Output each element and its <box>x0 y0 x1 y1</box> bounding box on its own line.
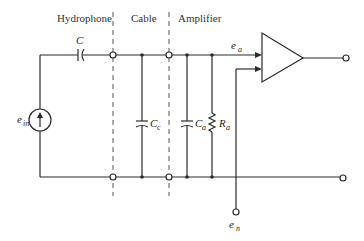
junction-dot <box>140 53 144 57</box>
input-arrow-ea <box>255 52 262 58</box>
terminal-noise <box>233 209 239 215</box>
section-label-cable: Cable <box>131 12 157 24</box>
terminal-output <box>343 55 349 61</box>
voltage-source-ein <box>29 109 51 177</box>
label-c: C <box>76 34 84 46</box>
amp-resistor-ra <box>209 55 215 177</box>
cable-capacitor-cc <box>136 55 148 177</box>
terminal-cable-bottom <box>166 174 172 180</box>
label-en-sub: n <box>236 224 240 233</box>
label-ea-sub: a <box>238 45 242 54</box>
section-label-hydrophone: Hydrophone <box>57 12 112 24</box>
amp-capacitor-ca <box>181 55 193 177</box>
junction-dot <box>185 53 189 57</box>
noise-input-wire <box>236 66 262 209</box>
junction-dot <box>210 175 214 179</box>
hydrophone-circuit-diagram: Hydrophone Cable Amplifier C e in C c <box>0 0 364 241</box>
label-ra: R <box>218 117 226 129</box>
label-ea: e <box>231 39 236 51</box>
label-en: e <box>229 218 234 230</box>
amplifier-triangle <box>262 33 303 82</box>
junction-dot <box>185 175 189 179</box>
terminal-hydrophone-bottom <box>110 174 116 180</box>
terminal-ground-output <box>340 175 346 181</box>
junction-dot <box>210 53 214 57</box>
top-wire <box>40 55 260 109</box>
label-ca-sub: a <box>202 123 206 132</box>
terminal-hydrophone-top <box>110 52 116 58</box>
label-ra-sub: a <box>226 123 230 132</box>
section-label-amplifier: Amplifier <box>178 12 222 24</box>
junction-dot <box>140 175 144 179</box>
terminal-cable-top <box>166 52 172 58</box>
label-ein: e <box>17 113 22 125</box>
label-ein-sub: in <box>23 119 29 128</box>
label-cc-sub: c <box>157 123 161 132</box>
